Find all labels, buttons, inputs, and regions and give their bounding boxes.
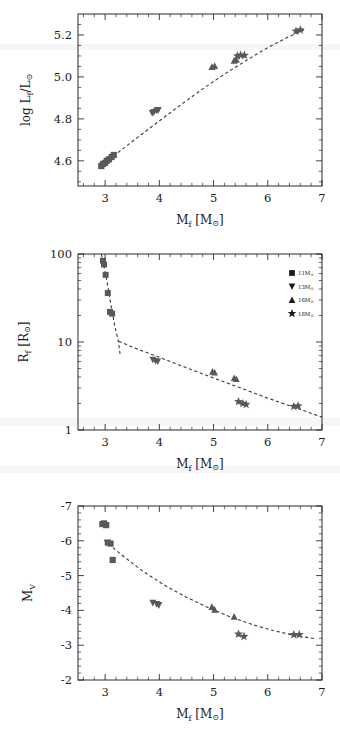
marker-square <box>103 522 109 528</box>
luminosity-axis-labels: 345674.64.85.05.2Mf [M⊙]log Lf/L⊙ <box>19 28 326 229</box>
svg-text:5: 5 <box>210 685 217 699</box>
luminosity-axes <box>78 14 322 186</box>
luminosity-plot: 345674.64.85.05.2Mf [M⊙]log Lf/L⊙ <box>0 0 340 240</box>
svg-text:10: 10 <box>57 335 72 349</box>
x-axis-label: Mf [M⊙] <box>176 457 223 473</box>
svg-text:4: 4 <box>156 191 163 205</box>
y-axis-label: log Lf/L⊙ <box>19 74 35 126</box>
magnitude-fit-line <box>104 540 317 639</box>
svg-text:7: 7 <box>318 435 325 449</box>
radius-axis-labels: 34567110100Mf [M⊙]Rf [R⊙] <box>17 247 326 473</box>
svg-text:3: 3 <box>101 685 108 699</box>
magnitude-axes <box>78 506 322 680</box>
marker-triangle-up <box>231 613 238 620</box>
radius-plot: 11M⊙13M⊙16M⊙18M⊙ 34567110100Mf [M⊙]Rf [R… <box>0 240 340 486</box>
magnitude-plot: 34567-7-6-5-4-3-2Mf [M⊙]MV <box>0 486 340 734</box>
x-axis-label: Mf [M⊙] <box>176 213 223 229</box>
svg-text:4: 4 <box>156 685 163 699</box>
svg-text:-6: -6 <box>61 534 72 548</box>
marker-triangle-down <box>289 284 296 290</box>
marker-square <box>110 557 116 563</box>
y-axis-label: Rf [R⊙] <box>17 322 33 363</box>
marker-square <box>105 290 111 296</box>
radius-data-points <box>100 258 303 411</box>
panel-magnitude: 34567-7-6-5-4-3-2Mf [M⊙]MV <box>0 486 340 734</box>
svg-text:5.0: 5.0 <box>54 70 72 84</box>
svg-text:-7: -7 <box>61 499 72 513</box>
svg-text:4.6: 4.6 <box>54 154 72 168</box>
marker-square <box>289 270 295 276</box>
legend-label: 16M⊙ <box>298 297 314 304</box>
marker-square <box>109 311 115 317</box>
svg-text:-4: -4 <box>61 603 72 617</box>
marker-triangle-up <box>289 297 296 303</box>
x-axis-label: Mf [M⊙] <box>176 707 223 723</box>
marker-square <box>103 272 109 278</box>
marker-square <box>101 261 107 267</box>
svg-text:1: 1 <box>65 423 72 437</box>
marker-star <box>240 51 249 60</box>
svg-text:7: 7 <box>318 685 325 699</box>
marker-star <box>288 309 297 317</box>
legend-label: 11M⊙ <box>298 270 314 277</box>
svg-text:3: 3 <box>101 435 108 449</box>
svg-text:-3: -3 <box>61 638 72 652</box>
svg-text:3: 3 <box>101 191 108 205</box>
svg-text:4.8: 4.8 <box>54 112 72 126</box>
luminosity-fit-line <box>100 29 306 167</box>
legend: 11M⊙13M⊙16M⊙18M⊙ <box>288 270 314 318</box>
svg-text:5: 5 <box>210 191 217 205</box>
luminosity-data-points <box>98 25 305 169</box>
panel-luminosity: 345674.64.85.05.2Mf [M⊙]log Lf/L⊙ <box>0 0 340 240</box>
svg-text:100: 100 <box>50 247 72 261</box>
svg-text:4: 4 <box>156 435 163 449</box>
radius-axes <box>78 254 322 430</box>
svg-text:6: 6 <box>264 191 271 205</box>
svg-text:6: 6 <box>264 435 271 449</box>
svg-text:5: 5 <box>210 435 217 449</box>
svg-text:-5: -5 <box>61 569 72 583</box>
legend-label: 18M⊙ <box>298 311 314 318</box>
radius-fit-lines <box>101 254 322 417</box>
marker-square <box>107 540 113 546</box>
magnitude-data-points <box>99 520 303 640</box>
svg-text:7: 7 <box>318 191 325 205</box>
legend-label: 13M⊙ <box>298 284 314 291</box>
panel-radius: 11M⊙13M⊙16M⊙18M⊙ 34567110100Mf [M⊙]Rf [R… <box>0 240 340 486</box>
svg-text:6: 6 <box>264 685 271 699</box>
magnitude-axis-labels: 34567-7-6-5-4-3-2Mf [M⊙]MV <box>21 499 326 723</box>
svg-text:-2: -2 <box>61 673 72 687</box>
multi-panel-figure: 345674.64.85.05.2Mf [M⊙]log Lf/L⊙ 11M⊙13… <box>0 0 340 734</box>
y-axis-label: MV <box>21 584 37 602</box>
svg-text:5.2: 5.2 <box>54 28 72 42</box>
marker-square <box>111 152 117 158</box>
